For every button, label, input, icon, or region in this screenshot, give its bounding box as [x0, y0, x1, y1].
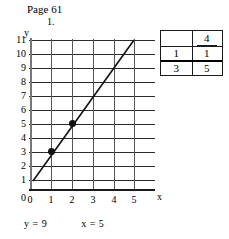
- x-tick-label: 3: [87, 195, 99, 205]
- x-tick-label: 5: [128, 195, 140, 205]
- table-cell: 4: [192, 31, 223, 46]
- table-row: 1 1: [161, 47, 222, 61]
- data-point: [69, 120, 76, 127]
- data-point: [48, 148, 55, 155]
- table-cell: [161, 31, 192, 46]
- answer-y: y = 9: [24, 218, 47, 229]
- x-tick-label: 4: [108, 195, 120, 205]
- coordinate-plot: 11 10 9 8 7 6 5 4 3 2 1 0 0 1 2 3 4 5: [0, 26, 175, 211]
- table-cell: 3: [161, 62, 192, 76]
- table-cell: 1: [161, 47, 192, 61]
- answer-table: 4 1 1 3 5: [160, 30, 223, 76]
- x-tick-label: 1: [45, 195, 57, 205]
- table-cell: 1: [192, 47, 223, 61]
- table-cell: 5: [192, 62, 223, 76]
- answers-line: y = 9 x = 5: [24, 218, 104, 229]
- x-tick-label: 0: [24, 195, 36, 205]
- answer-x: x = 5: [81, 218, 104, 229]
- x-tick-label: 2: [66, 195, 78, 205]
- table-row: 3 5: [161, 62, 222, 76]
- trend-line: [0, 26, 175, 211]
- page-label: Page 61: [27, 3, 62, 15]
- table-row: 4: [161, 31, 222, 46]
